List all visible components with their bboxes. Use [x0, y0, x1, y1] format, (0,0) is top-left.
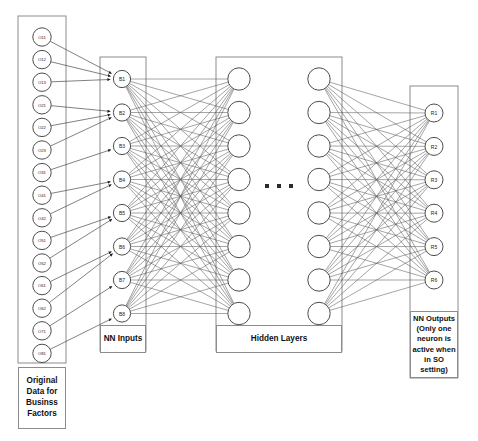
node-b-b6: B6 [113, 238, 130, 255]
node-input-o42: O42 [33, 209, 51, 227]
svg-text:O41: O41 [38, 193, 47, 198]
node-output-r4: R4 [425, 204, 443, 222]
node-hidden2-4 [308, 168, 330, 190]
node-output-r5: R5 [425, 238, 443, 256]
node-hidden2-7 [308, 269, 330, 291]
svg-text:B3: B3 [119, 143, 125, 149]
node-b-b2: B2 [113, 104, 130, 121]
svg-text:B8: B8 [119, 311, 125, 317]
svg-text:O62: O62 [38, 306, 47, 311]
svg-text:O31: O31 [38, 170, 47, 175]
svg-text:O81: O81 [38, 351, 47, 356]
node-input-o62: O62 [33, 299, 51, 317]
caption-hidden-layers: Hidden Layers [216, 325, 342, 353]
diagram-canvas: O11O12O13O21O22O23O31O41O42O51O52O61O62O… [0, 0, 478, 441]
original-data-nodes: O11O12O13O21O22O23O31O41O42O51O52O61O62O… [33, 28, 51, 363]
input-to-nn-input-edges [49, 41, 112, 349]
node-hidden1-7 [228, 269, 250, 291]
svg-text:R2: R2 [431, 144, 438, 150]
node-hidden1-2 [228, 101, 250, 123]
node-hidden2-5 [308, 202, 330, 224]
node-input-o41: O41 [33, 186, 51, 204]
svg-text:O71: O71 [38, 329, 47, 334]
node-output-r1: R1 [425, 104, 443, 122]
svg-text:O22: O22 [38, 125, 47, 130]
node-input-o22: O22 [33, 118, 51, 136]
svg-text:B1: B1 [119, 76, 125, 82]
node-hidden1-5 [228, 202, 250, 224]
node-input-o21: O21 [33, 96, 51, 114]
node-output-r3: R3 [425, 171, 443, 189]
svg-text:B5: B5 [119, 210, 125, 216]
svg-text:O42: O42 [38, 216, 47, 221]
node-input-o13: O13 [33, 73, 51, 91]
svg-text:R4: R4 [431, 210, 438, 216]
node-b-b1: B1 [113, 70, 130, 87]
node-input-o52: O52 [33, 254, 51, 272]
hidden2-to-output-edges [325, 82, 430, 310]
svg-text:O52: O52 [38, 261, 47, 266]
node-b-b7: B7 [113, 271, 130, 288]
svg-text:O12: O12 [38, 57, 47, 62]
svg-text:B2: B2 [119, 110, 125, 116]
caption-original-data: Original Data for Businss Factors [18, 367, 66, 429]
node-input-o81: O81 [33, 344, 51, 362]
node-hidden2-3 [308, 135, 330, 157]
node-b-b3: B3 [113, 137, 130, 154]
node-hidden1-3 [228, 135, 250, 157]
svg-text:R6: R6 [431, 277, 438, 283]
caption-nn-outputs: NN Outputs (Only one neuron is active wh… [410, 311, 458, 378]
node-input-o12: O12 [33, 50, 51, 68]
svg-text:O21: O21 [38, 103, 47, 108]
neural-network-diagram: O11O12O13O21O22O23O31O41O42O51O52O61O62O… [0, 0, 478, 441]
node-input-o71: O71 [33, 322, 51, 340]
svg-text:O11: O11 [38, 35, 46, 40]
node-hidden1-6 [228, 235, 250, 257]
svg-text:O13: O13 [38, 80, 47, 85]
svg-text:O61: O61 [38, 283, 47, 288]
node-input-o31: O31 [33, 163, 51, 181]
svg-text:O23: O23 [38, 148, 47, 153]
node-input-o23: O23 [33, 141, 51, 159]
svg-text:R1: R1 [431, 110, 438, 116]
node-hidden2-2 [308, 101, 330, 123]
node-b-b8: B8 [113, 305, 130, 322]
node-output-r2: R2 [425, 137, 443, 155]
node-hidden2-8 [308, 302, 330, 324]
node-input-o61: O61 [33, 276, 51, 294]
node-output-r6: R6 [425, 271, 443, 289]
node-hidden1-8 [228, 302, 250, 324]
output-nodes: R1R2R3R4R5R6 [425, 104, 443, 289]
nn-input-to-hidden1-edges [126, 79, 234, 314]
nn-input-nodes: B1B2B3B4B5B6B7B8 [113, 70, 130, 322]
svg-text:B4: B4 [119, 177, 125, 183]
hidden-layer-1-nodes [228, 68, 250, 325]
svg-text:R3: R3 [431, 177, 438, 183]
node-hidden2-1 [308, 68, 330, 90]
hidden-layer-2-nodes [308, 68, 330, 325]
caption-nn-inputs: NN Inputs [100, 325, 146, 353]
svg-text:R5: R5 [431, 244, 438, 250]
svg-text:B6: B6 [119, 244, 125, 250]
node-hidden2-6 [308, 235, 330, 257]
hidden-layers-ellipsis-icon [265, 184, 293, 188]
node-input-o51: O51 [33, 231, 51, 249]
node-input-o11: O11 [33, 28, 51, 46]
svg-text:O51: O51 [38, 238, 47, 243]
svg-text:B7: B7 [119, 277, 125, 283]
node-b-b5: B5 [113, 204, 130, 221]
node-hidden1-1 [228, 68, 250, 90]
node-b-b4: B4 [113, 171, 130, 188]
node-hidden1-4 [228, 168, 250, 190]
